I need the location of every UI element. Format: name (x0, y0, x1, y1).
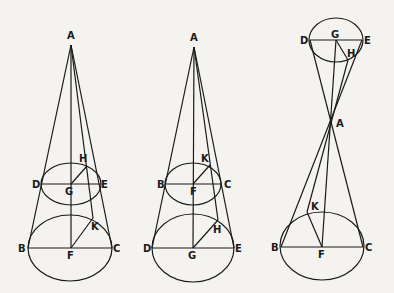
figure-3-label-K: K (311, 201, 320, 212)
figure-1-label-B: B (18, 243, 26, 254)
figure-3-label-A: A (336, 118, 344, 129)
figure-1-slant-left (28, 45, 71, 248)
figure-2-label-K: K (201, 153, 210, 164)
figure-1-slant-right (71, 45, 112, 248)
figure-3-label-C: C (365, 242, 372, 253)
figure-2-upper-radius (193, 165, 210, 184)
figure-1-label-K: K (91, 221, 100, 232)
figure-1-label-A: A (67, 30, 75, 41)
figure-3-label-D: D (300, 35, 308, 46)
figure-1-label-E: E (101, 179, 108, 190)
figure-2-slant-right (194, 47, 234, 248)
geometry-figure: ADEGHBCFKABCFKDEGHADEGHBCFK (0, 0, 394, 293)
figure-3-generator-line (307, 60, 348, 212)
figure-3-base-radius (307, 212, 322, 247)
figure-1-base-radius (71, 218, 93, 248)
figure-2-label-D: D (143, 243, 151, 254)
figure-2-label-C: C (224, 179, 231, 190)
figure-1-label-G: G (65, 186, 73, 197)
figure-1-label-F: F (67, 250, 74, 261)
figure-2-label-G: G (188, 250, 196, 261)
figure-3-label-H: H (347, 48, 355, 59)
figure-1-label-H: H (79, 153, 87, 164)
figure-2-generator-line (194, 47, 218, 220)
figure-3-label-E: E (364, 35, 371, 46)
cone-diagrams: ADEGHBCFKABCFKDEGHADEGHBCFK (0, 0, 394, 293)
figure-2-axis (193, 47, 194, 248)
figure-3-label-G: G (331, 29, 339, 40)
figure-2-label-E: E (235, 243, 242, 254)
figure-3-slant-e-b (281, 40, 362, 247)
figure-2-label-H: H (213, 224, 221, 235)
figure-2-label-B: B (157, 179, 165, 190)
figure-3-label-F: F (318, 249, 325, 260)
figure-2-label-F: F (190, 186, 197, 197)
figure-1-label-C: C (113, 243, 120, 254)
figure-1-generator-line (71, 45, 93, 218)
figure-1-upper-radius (71, 166, 87, 184)
figure-3-axis (322, 40, 336, 247)
figure-2-label-A: A (190, 32, 198, 43)
figure-3-slant-d-c (310, 40, 363, 247)
figure-3-label-B: B (271, 242, 279, 253)
figure-1-label-D: D (32, 179, 40, 190)
